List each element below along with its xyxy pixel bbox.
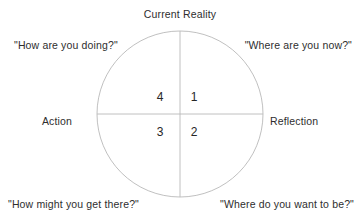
question-bottom-right: "Where do you want to be?" [220, 198, 354, 211]
axis-label-left-action: Action [22, 115, 92, 128]
question-bottom-left: "How might you get there?" [8, 198, 139, 211]
question-top-left: "How are you doing?" [14, 39, 118, 52]
question-top-right: "Where are you now?" [245, 39, 352, 52]
axis-label-top: Current Reality [0, 8, 360, 21]
quadrant-number-4: 4 [149, 90, 171, 104]
diagram-canvas: Current Reality Action Reflection "How a… [0, 0, 360, 219]
diagram-geometry [0, 0, 360, 219]
quadrant-number-3: 3 [149, 125, 171, 139]
axis-label-right-reflection: Reflection [270, 115, 350, 128]
quadrant-number-2: 2 [183, 125, 205, 139]
quadrant-number-1: 1 [183, 90, 205, 104]
